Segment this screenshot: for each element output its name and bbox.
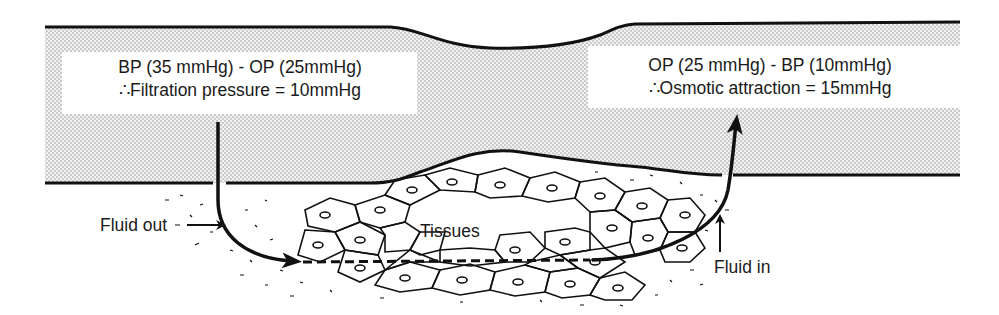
- osmotic-attraction-result: ∴Osmotic attraction = 15mmHg: [600, 77, 940, 100]
- dashed-exchange-line: [303, 260, 590, 262]
- filtration-pressure-result: ∴Filtration pressure = 10mmHg: [70, 79, 410, 102]
- fluid-in-label: Fluid in: [714, 256, 770, 279]
- filtration-label: BP (35 mmHg) - OP (25mmHg) ∴Filtration p…: [70, 56, 410, 102]
- osmotic-equation: OP (25 mmHg) - BP (10mmHg): [600, 54, 940, 77]
- tissues-label: Tissues: [420, 220, 480, 243]
- osmotic-label: OP (25 mmHg) - BP (10mmHg) ∴Osmotic attr…: [600, 54, 940, 100]
- filtration-equation: BP (35 mmHg) - OP (25mmHg): [70, 56, 410, 79]
- fluid-out-label: Fluid out: [100, 214, 167, 237]
